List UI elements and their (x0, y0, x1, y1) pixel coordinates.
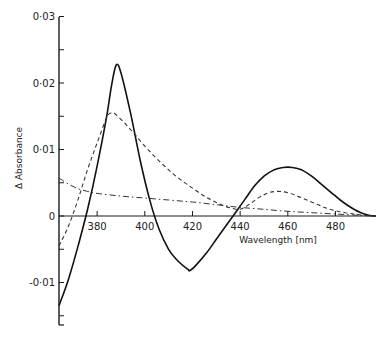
axes: -0·0100·010·020·03380400420440460480 (29, 11, 376, 325)
series-dash-dot-line (59, 178, 376, 216)
y-tick-label: 0·03 (33, 11, 55, 22)
x-tick-label: 480 (326, 221, 345, 232)
x-axis-title: Wavelength [nm] (239, 235, 317, 245)
x-tick-label: 400 (135, 221, 154, 232)
y-tick-label: 0 (49, 211, 55, 222)
data-series (59, 64, 376, 306)
x-tick-label: 460 (278, 221, 297, 232)
chart: -0·0100·010·020·03380400420440460480 Δ A… (0, 0, 391, 338)
series-solid-line (59, 64, 376, 306)
x-tick-label: 380 (88, 221, 107, 232)
x-tick-label: 420 (183, 221, 202, 232)
y-tick-label: 0·01 (33, 144, 55, 155)
x-tick-label: 440 (231, 221, 250, 232)
y-tick-label: -0·01 (29, 277, 55, 288)
y-tick-label: 0·02 (33, 78, 55, 89)
y-axis-title: Δ Absorbance (14, 126, 24, 189)
